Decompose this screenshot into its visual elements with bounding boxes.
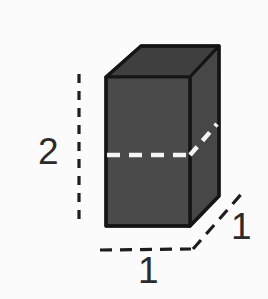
height-dimension-label: 2: [38, 133, 59, 170]
depth-dimension-label: 1: [231, 208, 252, 245]
prism-body: [106, 46, 219, 226]
prism-front-face: [106, 77, 190, 226]
width-dimension-label: 1: [138, 252, 159, 289]
figure-canvas: 2 1 1: [0, 0, 268, 299]
